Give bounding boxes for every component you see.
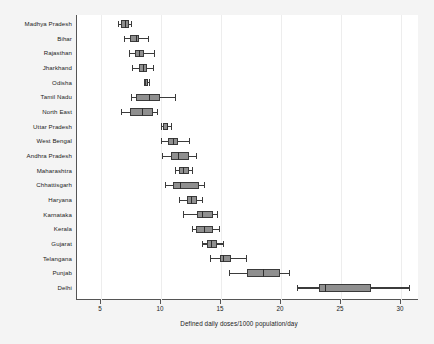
median-line bbox=[173, 138, 174, 145]
median-line bbox=[147, 79, 148, 86]
x-tick-label: 5 bbox=[98, 305, 102, 312]
x-tick-mark bbox=[100, 300, 101, 304]
whisker-high bbox=[280, 273, 290, 274]
box-plot-row bbox=[77, 193, 419, 208]
whisker-cap-low bbox=[183, 211, 184, 217]
median-line bbox=[183, 167, 184, 174]
whisker-high bbox=[189, 156, 196, 157]
median-line bbox=[167, 123, 168, 130]
category-label: Gujarat bbox=[51, 240, 72, 247]
whisker-cap-high bbox=[192, 167, 193, 173]
whisker-cap-high bbox=[175, 94, 176, 100]
category-label: Kerala bbox=[54, 225, 72, 232]
whisker-low bbox=[162, 156, 170, 157]
box-iqr bbox=[187, 196, 197, 203]
median-line bbox=[139, 50, 140, 57]
category-label: Karnataka bbox=[43, 211, 72, 218]
box-plot-row bbox=[77, 17, 419, 32]
median-line bbox=[136, 35, 137, 42]
whisker-cap-low bbox=[124, 36, 125, 42]
whisker-high bbox=[231, 258, 247, 259]
whisker-cap-high bbox=[223, 241, 224, 247]
whisker-cap-low bbox=[179, 197, 180, 203]
whisker-cap-high bbox=[148, 36, 149, 42]
whisker-cap-low bbox=[297, 285, 298, 291]
whisker-high bbox=[371, 287, 409, 288]
box-plot-row bbox=[77, 178, 419, 193]
whisker-cap-high bbox=[202, 197, 203, 203]
whisker-cap-low bbox=[229, 270, 230, 276]
box-iqr bbox=[136, 94, 160, 101]
box-iqr bbox=[220, 255, 231, 262]
box-iqr bbox=[319, 284, 371, 291]
category-label: Odisha bbox=[52, 79, 72, 86]
x-tick-mark bbox=[340, 300, 341, 304]
box-plot-row bbox=[77, 46, 419, 61]
category-label: Tamil Nadu bbox=[41, 93, 72, 100]
whisker-cap-high bbox=[196, 153, 197, 159]
plot-area bbox=[77, 15, 418, 299]
x-tick-mark bbox=[160, 300, 161, 304]
category-label: Punjab bbox=[52, 269, 72, 276]
x-tick-mark bbox=[400, 300, 401, 304]
whisker-cap-low bbox=[162, 153, 163, 159]
category-label: Uttar Pradesh bbox=[33, 123, 72, 130]
box-iqr bbox=[179, 167, 189, 174]
whisker-cap-high bbox=[153, 65, 154, 71]
whisker-low bbox=[229, 273, 247, 274]
whisker-low bbox=[179, 200, 187, 201]
whisker-low bbox=[121, 112, 129, 113]
category-label: Chhattisgarh bbox=[36, 181, 72, 188]
whisker-cap-high bbox=[157, 109, 158, 115]
whisker-cap-high bbox=[217, 211, 218, 217]
whisker-low bbox=[165, 185, 173, 186]
box-plot-row bbox=[77, 251, 419, 266]
whisker-cap-high bbox=[131, 21, 132, 27]
whisker-cap-low bbox=[118, 21, 119, 27]
whisker-cap-high bbox=[149, 79, 150, 85]
x-tick-mark bbox=[280, 300, 281, 304]
box-plot-row bbox=[77, 222, 419, 237]
x-tick-label: 10 bbox=[156, 305, 163, 312]
x-tick-label: 25 bbox=[336, 305, 343, 312]
whisker-low bbox=[183, 214, 197, 215]
x-axis-title-text: Defined daily doses/1000 population/day bbox=[136, 320, 297, 327]
box-plot-row bbox=[77, 31, 419, 46]
whisker-cap-low bbox=[132, 65, 133, 71]
median-line bbox=[142, 108, 143, 115]
whisker-cap-low bbox=[210, 255, 211, 261]
whisker-high bbox=[139, 38, 147, 39]
category-label: Bihar bbox=[57, 35, 72, 42]
box-plot-row bbox=[77, 61, 419, 76]
whisker-cap-low bbox=[121, 109, 122, 115]
box-plot-row bbox=[77, 237, 419, 252]
whisker-cap-high bbox=[409, 285, 410, 291]
median-line bbox=[202, 211, 203, 218]
box-iqr bbox=[171, 152, 189, 159]
category-label: Delhi bbox=[58, 284, 72, 291]
category-label: Telangana bbox=[43, 255, 72, 262]
whisker-high bbox=[178, 141, 189, 142]
whisker-high bbox=[160, 97, 176, 98]
category-label: Madhya Pradesh bbox=[25, 20, 72, 27]
median-line bbox=[180, 182, 181, 189]
category-label: Andhra Pradesh bbox=[27, 152, 72, 159]
whisker-low bbox=[210, 258, 220, 259]
x-tick-label: 15 bbox=[216, 305, 223, 312]
category-label: Maharashtra bbox=[37, 167, 72, 174]
whisker-low bbox=[297, 287, 320, 288]
x-axis-title: Defined daily doses/1000 population/day bbox=[0, 320, 434, 327]
box-plot-row bbox=[77, 266, 419, 281]
category-axis-labels: Madhya PradeshBiharRajasthanJharkhandOdi… bbox=[0, 15, 72, 300]
category-label: Jharkhand bbox=[43, 64, 72, 71]
whisker-cap-high bbox=[171, 123, 172, 129]
category-label: West Bengal bbox=[36, 137, 72, 144]
whisker-cap-low bbox=[131, 94, 132, 100]
median-line bbox=[149, 94, 150, 101]
whisker-cap-low bbox=[165, 182, 166, 188]
box-plot-row bbox=[77, 105, 419, 120]
x-tick-label: 30 bbox=[396, 305, 403, 312]
median-line bbox=[263, 269, 264, 276]
box-iqr bbox=[197, 211, 213, 218]
whisker-cap-low bbox=[129, 50, 130, 56]
